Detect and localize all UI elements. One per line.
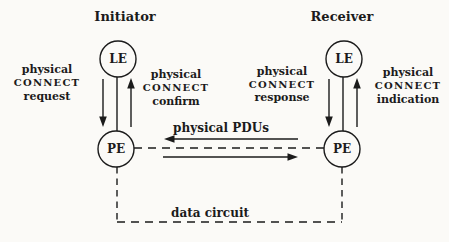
protocol-diagram: Initiator LE PE physical CONNECT — [0, 0, 449, 242]
indication-arrow-up-icon — [353, 78, 361, 127]
pdu-arrow-left-icon — [164, 135, 298, 143]
pdu-arrow-right-icon — [163, 153, 298, 161]
pdu-exchange: physical PDUs — [134, 121, 324, 161]
svg-text:CONNECT: CONNECT — [143, 82, 209, 93]
response-label: physical CONNECT response — [249, 65, 315, 104]
confirm-arrow-up-icon — [127, 78, 135, 127]
physical-pdus-label: physical PDUs — [173, 121, 269, 135]
svg-text:CONNECT: CONNECT — [249, 79, 315, 90]
svg-text:CONNECT: CONNECT — [14, 77, 80, 88]
indication-label: physical CONNECT indication — [375, 66, 441, 106]
response-arrow-down-icon — [325, 79, 333, 127]
svg-text:indication: indication — [377, 93, 439, 106]
initiator-pe-label: PE — [107, 142, 125, 156]
data-circuit-label: data circuit — [171, 206, 249, 220]
svg-text:physical: physical — [257, 65, 307, 78]
svg-text:request: request — [24, 90, 72, 103]
request-label: physical CONNECT request — [14, 63, 80, 103]
svg-text:CONNECT: CONNECT — [375, 80, 441, 91]
receiver-le-label: LE — [335, 52, 353, 66]
initiator-title: Initiator — [94, 9, 156, 24]
svg-text:physical: physical — [383, 66, 433, 79]
svg-text:physical: physical — [22, 63, 72, 76]
receiver-pe-label: PE — [333, 142, 351, 156]
request-arrow-down-icon — [99, 79, 107, 127]
svg-text:response: response — [254, 91, 309, 104]
receiver-title: Receiver — [311, 9, 374, 24]
initiator-le-label: LE — [109, 52, 127, 66]
confirm-label: physical CONNECT confirm — [143, 68, 209, 108]
diagram-canvas: Initiator LE PE physical CONNECT — [0, 0, 449, 242]
receiver-column: Receiver LE PE physical CONNECT — [249, 9, 441, 167]
svg-text:physical: physical — [151, 68, 201, 81]
initiator-column: Initiator LE PE physical CONNECT — [14, 9, 209, 167]
svg-text:confirm: confirm — [152, 95, 200, 108]
data-circuit: data circuit — [117, 167, 342, 222]
